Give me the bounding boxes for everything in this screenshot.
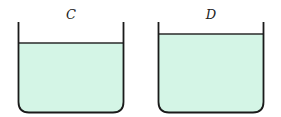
container-d-water	[159, 34, 264, 113]
container-d: D	[159, 7, 264, 113]
container-c-water	[19, 43, 124, 113]
container-d-label: D	[205, 7, 217, 22]
container-c-label: C	[66, 7, 76, 22]
two-containers-diagram: C D	[0, 0, 281, 117]
container-c: C	[19, 7, 124, 113]
